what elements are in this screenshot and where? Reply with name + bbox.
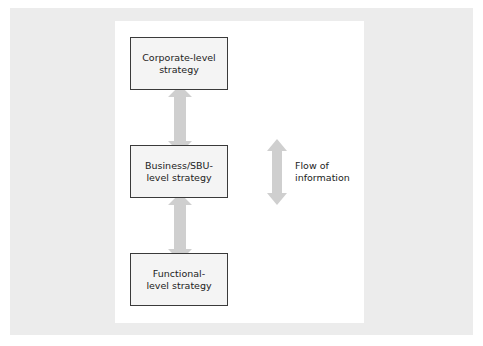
corporate-level-box: Corporate-level strategy bbox=[130, 37, 228, 90]
box-label-line2: level strategy bbox=[145, 172, 213, 184]
box-label-line2: level strategy bbox=[146, 280, 211, 292]
arrows-layer bbox=[0, 0, 483, 346]
flow-arrow-icon bbox=[267, 139, 287, 205]
legend-line1: Flow of bbox=[295, 160, 350, 172]
box-label-line1: Business/SBU- bbox=[145, 160, 213, 172]
double-arrow-icon bbox=[168, 193, 192, 261]
legend-label: Flow of information bbox=[295, 160, 350, 184]
business-level-box: Business/SBU- level strategy bbox=[130, 145, 228, 198]
box-label-line2: strategy bbox=[142, 64, 216, 76]
double-arrow-icon bbox=[168, 85, 192, 153]
box-label-line1: Corporate-level bbox=[142, 52, 216, 64]
functional-level-box: Functional- level strategy bbox=[130, 253, 228, 306]
legend-line2: information bbox=[295, 172, 350, 184]
box-label-line1: Functional- bbox=[146, 268, 211, 280]
